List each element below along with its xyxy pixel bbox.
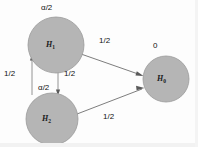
edge-h1-to-h0 [81, 54, 144, 76]
edge-h1-to-h0-line [81, 54, 141, 75]
node-h2-label: H2 [42, 115, 51, 123]
node-h1-label-sub: 1 [52, 44, 55, 50]
edge-h2-to-h0-line [77, 89, 142, 114]
edge-label-h2-to-h0: 1/2 [103, 113, 114, 121]
node-h2-label-sub: 2 [48, 118, 51, 124]
node-h2-circle[interactable] [26, 93, 78, 145]
edge-label-h1-to-h2: 1/2 [64, 70, 75, 78]
node-h1-label: H1 [46, 41, 55, 49]
annotation-h0-zero: 0 [153, 42, 157, 50]
node-h1-circle[interactable] [28, 17, 84, 73]
edge-h1-to-h0-arrowhead [136, 71, 144, 76]
edge-label-h2-to-h1: 1/2 [4, 70, 15, 78]
diagram-canvas [0, 0, 198, 147]
node-h0-circle[interactable] [143, 56, 189, 102]
edge-label-h1-to-h0: 1/2 [99, 37, 110, 45]
page-bottom-margin [0, 143, 198, 147]
page-right-margin [195, 0, 198, 147]
edge-h2-to-h0 [77, 86, 145, 114]
annotation-h2-alpha-half: α/2 [38, 84, 49, 92]
annotation-h1-alpha-half: α/2 [41, 4, 52, 12]
node-h0-label: H0 [157, 75, 166, 83]
node-h0-label-sub: 0 [163, 78, 166, 84]
state-transition-diagram: H1 H2 H0 α/2 α/2 0 1/2 1/2 1/2 1/2 [0, 0, 198, 147]
